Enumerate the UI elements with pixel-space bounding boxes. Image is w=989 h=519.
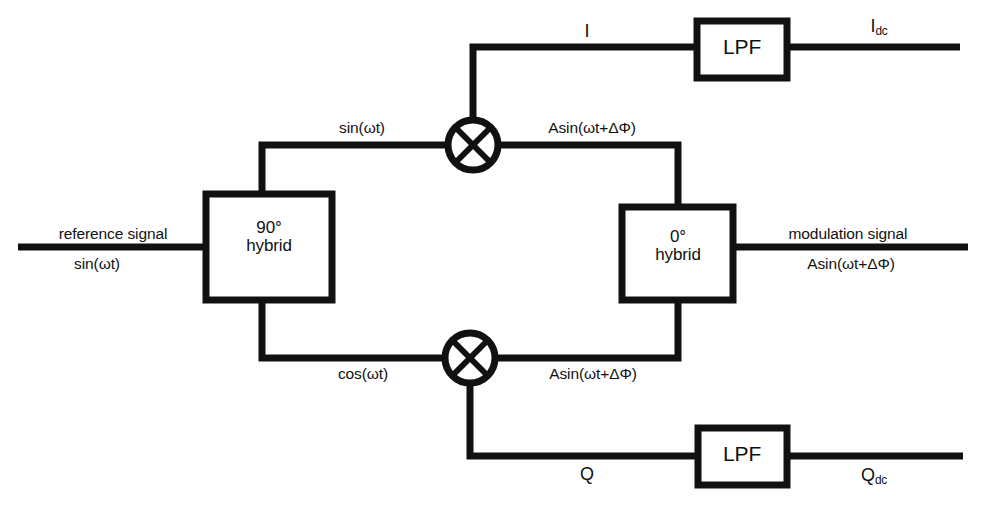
label-q-branch: Q (580, 465, 594, 484)
mixer-bottom[interactable] (445, 333, 495, 383)
label-reference-expression: sin(ωt) (74, 256, 120, 273)
wire-hybrid90-top-to-mixer-top (262, 145, 448, 194)
label-q-dc-output: Qdc (861, 466, 887, 487)
hybrid-90-line2: hybrid (209, 237, 329, 255)
label-upper-branch-signal: sin(ωt) (339, 120, 385, 137)
hybrid-90-line1: 90° (256, 218, 281, 237)
label-mixer-bottom-output: Asin(ωt+ΔΦ) (549, 366, 637, 383)
label-lower-branch-signal: cos(ωt) (338, 366, 388, 383)
wire-mixer-bottom-to-hybrid0 (495, 300, 678, 358)
label-i-branch: I (585, 22, 590, 41)
wire-q-branch-to-lpf (470, 383, 698, 456)
hybrid-0-line2: hybrid (623, 246, 733, 264)
label-reference-signal: reference signal (59, 226, 168, 243)
i-dc-subscript: dc (875, 24, 887, 38)
q-dc-base: Q (861, 465, 875, 485)
block-lpf-top-label: LPF (698, 36, 786, 59)
diagram-canvas: 90° hybrid 0° hybrid LPF LPF reference s… (0, 0, 989, 519)
block-hybrid-0-label: 0° hybrid (623, 228, 733, 265)
hybrid-0-line1: 0° (670, 227, 686, 246)
block-hybrid-90-label: 90° hybrid (209, 219, 329, 256)
wire-hybrid90-bottom-to-mixer-bottom (262, 300, 445, 358)
q-dc-subscript: dc (875, 473, 887, 487)
block-lpf-bottom-label: LPF (698, 443, 786, 466)
label-modulation-signal: modulation signal (789, 226, 908, 243)
wire-i-branch-to-lpf (473, 47, 697, 120)
label-i-dc-output: Idc (870, 17, 887, 38)
label-modulation-expression: Asin(ωt+ΔΦ) (807, 256, 895, 273)
wire-mixer-top-to-hybrid0 (498, 145, 678, 207)
mixer-top[interactable] (448, 120, 498, 170)
label-mixer-top-output: Asin(ωt+ΔΦ) (548, 120, 636, 137)
